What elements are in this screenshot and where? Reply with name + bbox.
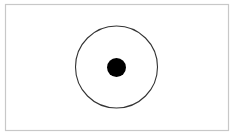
center-dot [107,58,126,77]
diagram-canvas [0,0,236,134]
